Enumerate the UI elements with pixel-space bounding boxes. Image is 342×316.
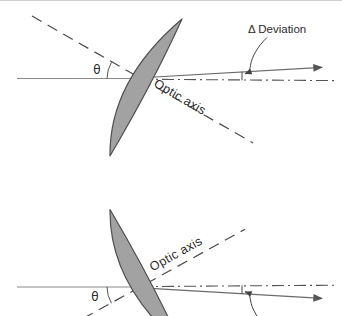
undeviated-axis-dashdot-top — [140, 79, 334, 80]
theta-label-bottom: θ — [91, 290, 98, 304]
optic-axis-dashed-bottom — [83, 229, 245, 316]
theta-arc-bottom — [107, 287, 112, 303]
undeviated-axis-dashdot-bottom — [140, 285, 334, 286]
deviation-leader-top — [245, 38, 267, 74]
deviated-ray-top — [142, 67, 322, 77]
theta-arc-top — [107, 62, 112, 78]
deviated-ray-bottom — [142, 288, 322, 299]
theta-label-top: θ — [93, 63, 100, 77]
deviation-label: Δ Deviation — [248, 23, 306, 35]
diagram-linework — [0, 1, 342, 316]
optical-deviation-diagram: θ Optic axis Δ Deviation θ Optic axis — [0, 0, 342, 316]
